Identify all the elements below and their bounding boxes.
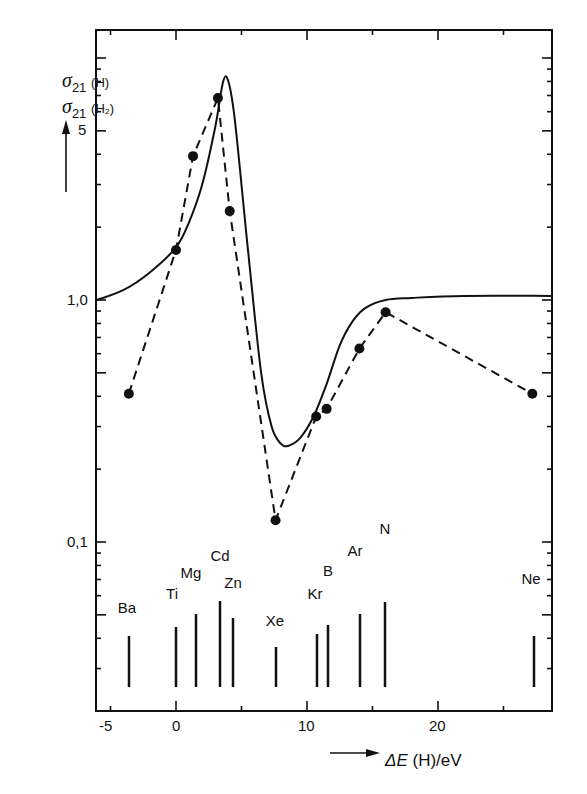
element-label-xe: Xe bbox=[266, 613, 284, 628]
y-axis-label-line2: σ21 (H₂) bbox=[62, 96, 114, 116]
data-point bbox=[322, 404, 332, 414]
x-tick-label-10: 10 bbox=[298, 718, 315, 733]
species-label: (H₂) bbox=[91, 101, 114, 116]
element-label-ba: Ba bbox=[118, 600, 136, 615]
experiment-points bbox=[124, 93, 537, 525]
experiment-dashed-line bbox=[129, 98, 532, 520]
plot-frame bbox=[96, 30, 552, 711]
y-tick-label-5: 5 bbox=[78, 122, 86, 137]
y-tick-label-0-1: 0,1 bbox=[67, 534, 88, 549]
element-label-zn: Zn bbox=[224, 575, 242, 590]
chart-canvas bbox=[0, 0, 587, 794]
subscript: 21 bbox=[72, 80, 86, 95]
data-point bbox=[188, 151, 198, 161]
axis-ticks bbox=[96, 30, 552, 711]
data-point bbox=[311, 412, 321, 422]
element-label-ne: Ne bbox=[521, 571, 540, 586]
y-tick-label-1: 1,0 bbox=[67, 292, 88, 307]
data-point bbox=[354, 344, 364, 354]
element-label-kr: Kr bbox=[308, 586, 323, 601]
element-lines bbox=[129, 601, 534, 687]
y-axis-label-line1: σ21 (H) bbox=[62, 70, 109, 90]
x-tick-label-20: 20 bbox=[429, 718, 446, 733]
element-label-ar: Ar bbox=[348, 543, 363, 558]
data-point bbox=[381, 307, 391, 317]
delta-e: ΔE bbox=[385, 751, 408, 770]
subscript: 21 bbox=[72, 106, 86, 121]
x-axis-label: ΔE (H)/eV bbox=[385, 752, 462, 769]
data-point bbox=[527, 389, 537, 399]
data-point bbox=[271, 515, 281, 525]
x-arrow-head bbox=[366, 749, 380, 757]
data-point bbox=[124, 389, 134, 399]
element-label-cd: Cd bbox=[210, 548, 229, 563]
theory-curve bbox=[97, 76, 551, 446]
species-label: (H) bbox=[91, 75, 109, 90]
element-label-ti: Ti bbox=[166, 586, 178, 601]
x-tick-label-0: 0 bbox=[172, 718, 180, 733]
x-tick-label-minus5: -5 bbox=[99, 718, 112, 733]
data-point bbox=[213, 93, 223, 103]
y-arrow-head bbox=[62, 120, 70, 134]
element-label-mg: Mg bbox=[181, 565, 202, 580]
x-unit: (H)/eV bbox=[408, 751, 462, 770]
sigma-symbol: σ bbox=[62, 95, 72, 117]
element-label-b: B bbox=[323, 563, 333, 578]
data-point bbox=[225, 206, 235, 216]
data-point bbox=[171, 245, 181, 255]
element-label-n: N bbox=[380, 521, 391, 536]
sigma-symbol: σ bbox=[62, 69, 72, 91]
